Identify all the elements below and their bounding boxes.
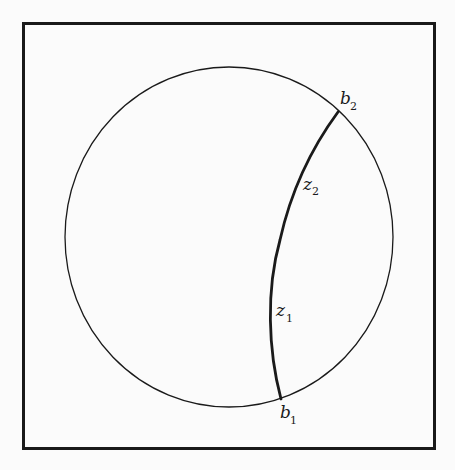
geodesic-arc: [270, 112, 338, 399]
label-b1-sub: 1: [290, 414, 297, 427]
label-b2: b 2: [340, 88, 357, 113]
label-b1: b 1: [280, 402, 297, 427]
label-z2: z 2: [302, 174, 319, 198]
diagram-canvas: b 2 z 2 z 1 b 1: [0, 0, 455, 470]
label-z1-base: z: [275, 300, 286, 320]
label-z1: z 1: [275, 300, 293, 325]
frame-border: [24, 24, 435, 449]
label-b2-sub: 2: [350, 100, 357, 113]
unit-circle: [65, 67, 393, 407]
label-z1-sub: 1: [286, 312, 293, 325]
label-z2-sub: 2: [312, 185, 319, 198]
